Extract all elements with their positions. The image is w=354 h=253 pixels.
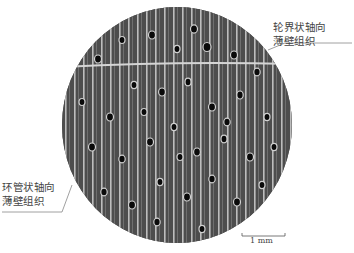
label-boundary-parenchyma: 轮界状轴向 薄壁组织 [273, 20, 326, 48]
label-left-line1: 环管状轴向 [2, 180, 55, 194]
label-top-line2: 薄壁组织 [273, 34, 326, 48]
scale-bar-label: 1 mm [250, 236, 273, 245]
label-left-line2: 薄壁组织 [2, 194, 55, 208]
label-top-line1: 轮界状轴向 [273, 20, 326, 34]
figure: 轮界状轴向 薄壁组织 环管状轴向 薄壁组织 1 mm [0, 0, 354, 253]
label-vasicentric-parenchyma: 环管状轴向 薄壁组织 [2, 180, 55, 208]
